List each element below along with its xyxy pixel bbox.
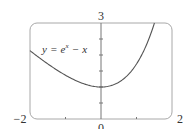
x-min-label: −2 xyxy=(14,112,27,126)
x-origin-label: 0 xyxy=(98,121,104,129)
function-label: y = ex − x xyxy=(41,38,87,55)
function-curve xyxy=(30,23,154,87)
chart-svg: 3 −2 2 0 y = ex − x xyxy=(0,0,189,129)
x-max-label: 2 xyxy=(177,112,183,126)
y-max-label: 3 xyxy=(98,9,104,23)
